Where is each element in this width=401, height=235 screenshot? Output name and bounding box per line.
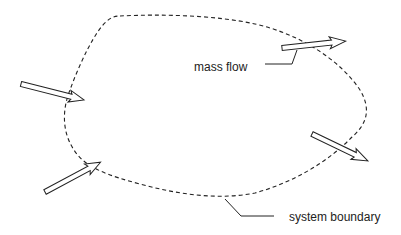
arrow-icon — [42, 157, 103, 197]
arrow-icon — [281, 35, 346, 54]
control-volume-diagram: mass flow system boundary — [0, 0, 401, 235]
mass-flow-arrow-out-top-right — [281, 35, 346, 54]
mass-flow-label: mass flow — [194, 60, 248, 74]
mass-flow-arrow-in-left — [20, 78, 86, 106]
system-boundary-leader-line — [225, 199, 274, 216]
mass-flow-arrow-out-right — [309, 129, 370, 167]
system-boundary-label: system boundary — [289, 210, 380, 224]
arrow-icon — [309, 129, 370, 167]
mass-flow-arrow-in-bottom-left — [42, 157, 103, 197]
mass-flow-leader-line — [265, 50, 297, 64]
arrow-icon — [20, 78, 86, 106]
